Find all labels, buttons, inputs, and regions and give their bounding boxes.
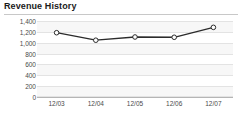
page-title: Revenue History xyxy=(4,1,77,11)
y-axis-tick: 400 xyxy=(2,72,36,79)
series-markers xyxy=(54,25,215,42)
title-divider xyxy=(4,14,238,15)
y-axis-tick: 800 xyxy=(2,51,36,58)
y-axis-tick: 1,200 xyxy=(2,29,36,36)
line-chart: 1,400 1,200 1,000 800 600 400 200 0 12/0… xyxy=(0,17,242,115)
y-axis-tick: 200 xyxy=(2,83,36,90)
x-axis-tick: 12/06 xyxy=(166,100,182,107)
x-axis-tick: 12/07 xyxy=(205,100,221,107)
y-axis-tick: 1,000 xyxy=(2,40,36,47)
x-axis-tick: 12/04 xyxy=(88,100,104,107)
series-revenue xyxy=(37,21,233,97)
x-axis-tick: 12/03 xyxy=(48,100,64,107)
data-point[interactable] xyxy=(211,25,216,30)
revenue-history-card: Revenue History 1,400 1,200 1,000 8 xyxy=(0,0,242,115)
data-point[interactable] xyxy=(133,35,138,40)
y-axis-tick: 1,400 xyxy=(2,18,36,25)
data-point[interactable] xyxy=(54,30,59,35)
y-axis-labels: 1,400 1,200 1,000 800 600 400 200 0 xyxy=(0,17,36,101)
data-point[interactable] xyxy=(94,38,99,43)
y-axis-tick: 600 xyxy=(2,61,36,68)
x-axis-line xyxy=(37,97,233,98)
data-point[interactable] xyxy=(172,35,177,40)
y-axis-tick: 0 xyxy=(2,94,36,101)
x-axis-labels: 12/03 12/04 12/05 12/06 12/07 xyxy=(37,100,233,114)
x-axis-tick: 12/05 xyxy=(127,100,143,107)
